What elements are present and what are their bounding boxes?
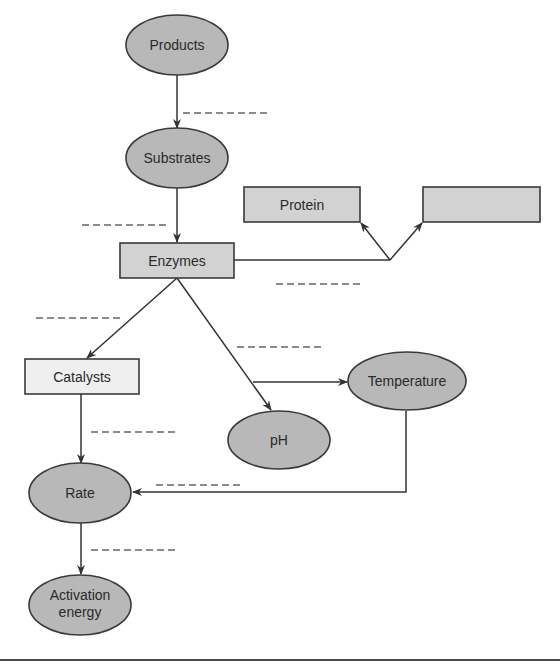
node-temperature: Temperature [348,352,466,410]
node-rate: Rate [29,463,131,523]
concept-map: Products Substrates Enzymes Protein Cata… [0,0,560,667]
node-label-line1: Activation [50,587,111,603]
node-label: Rate [65,485,95,501]
node-label: Enzymes [148,253,206,269]
node-activation-energy: Activation energy [29,575,131,635]
node-enzymes: Enzymes [120,243,234,278]
edge-branch-protein [361,223,390,260]
edge-enzymes-catalysts [87,278,177,358]
node-label: Substrates [144,150,211,166]
node-label: Temperature [368,373,447,389]
node-substrates: Substrates [126,128,228,188]
node-products: Products [126,15,228,75]
node-catalysts: Catalysts [25,359,139,394]
node-ph: pH [228,411,330,469]
node-blank-box[interactable] [423,187,540,222]
node-protein: Protein [244,187,360,222]
edge-enzymes-ph [177,278,271,410]
node-label: Protein [280,197,324,213]
edge-branch-blank-box [390,223,422,260]
node-label: pH [270,432,288,448]
node-label-line2: energy [59,604,102,620]
node-label: Catalysts [53,369,111,385]
node-label: Products [149,37,204,53]
